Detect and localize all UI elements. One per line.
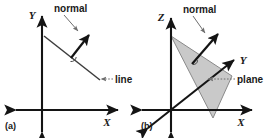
figure-canvas: normal line X Y (a) no bbox=[0, 0, 272, 138]
panel-b-x-axis-label: X bbox=[236, 116, 245, 128]
panel-a-line-label: line bbox=[115, 74, 133, 85]
panel-a-y-axis-label: Y bbox=[29, 9, 37, 21]
panel-a-caption: (a) bbox=[5, 121, 16, 131]
panel-a-x-axis-label: X bbox=[102, 116, 111, 128]
panel-b-z-axis-label: Z bbox=[157, 11, 165, 23]
panel-b-y-axis-label: Y bbox=[240, 54, 248, 66]
figure-root: normal line X Y (a) no bbox=[0, 0, 272, 138]
panel-b-normal-leader bbox=[193, 16, 205, 33]
panel-a-normal-vector bbox=[71, 35, 89, 58]
panel-a-normal-leader bbox=[64, 15, 78, 31]
panel-b-caption: (b) bbox=[141, 121, 153, 131]
panel-b: normal plane X Y Z (b) bbox=[141, 4, 264, 132]
panel-b-plane-polygon bbox=[171, 36, 232, 118]
panel-a: normal line X Y (a) bbox=[5, 3, 133, 132]
panel-b-normal-label: normal bbox=[183, 4, 217, 15]
panel-b-plane-label: plane bbox=[237, 74, 264, 85]
panel-a-normal-label: normal bbox=[54, 3, 88, 14]
